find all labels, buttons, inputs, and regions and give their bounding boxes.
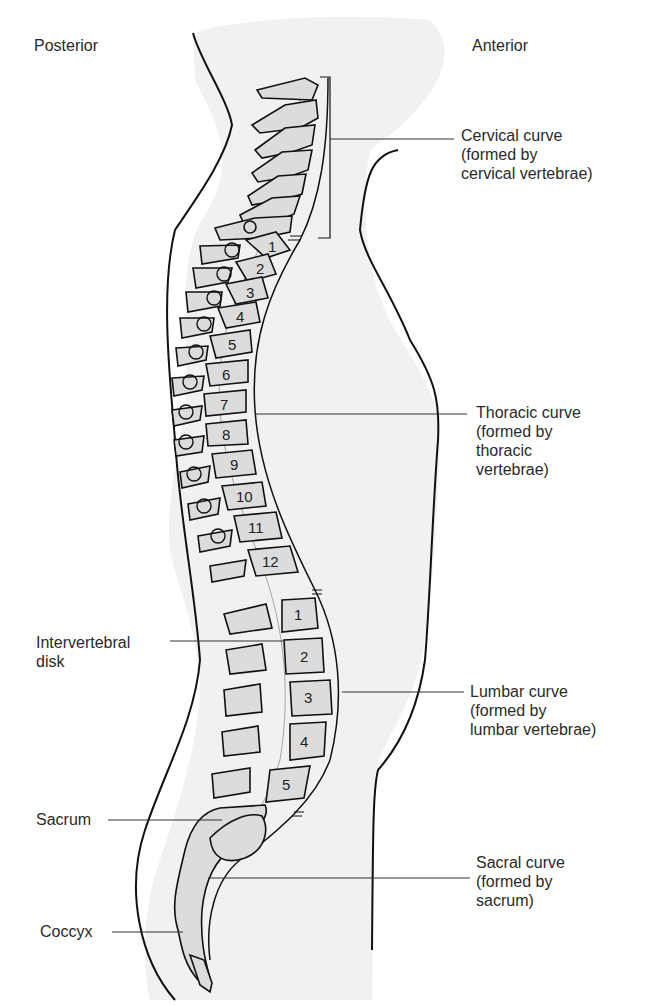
anterior-label: Anterior xyxy=(472,36,528,55)
vertebra-number-t9: 9 xyxy=(230,456,238,473)
vertebra-number-t4: 4 xyxy=(236,308,244,325)
vertebra-number-t7: 7 xyxy=(220,396,228,413)
thoracic-curve-line4: vertebrae) xyxy=(476,460,581,479)
vertebra-number-t2: 2 xyxy=(256,260,264,277)
vertebra-number-t5: 5 xyxy=(228,336,236,353)
vertebra-number-l1: 1 xyxy=(294,606,302,623)
vertebra-number-t10: 10 xyxy=(236,488,253,505)
intervertebral-disk-label: Intervertebral disk xyxy=(36,633,130,671)
coccyx-label-text: Coccyx xyxy=(40,922,92,941)
lumbar-curve-line2: (formed by xyxy=(470,701,596,720)
thoracic-curve-title: Thoracic curve xyxy=(476,403,581,422)
vertebra-number-l2: 2 xyxy=(300,648,308,665)
cervical-curve-title: Cervical curve xyxy=(461,126,593,145)
cervical-curve-label: Cervical curve (formed by cervical verte… xyxy=(461,126,593,183)
lumbar-curve-line3: lumbar vertebrae) xyxy=(470,720,596,739)
cervical-curve-line2: (formed by xyxy=(461,145,593,164)
vertebra-number-t1: 1 xyxy=(268,238,276,255)
sacrum-label-text: Sacrum xyxy=(36,810,91,829)
lumbar-curve-title: Lumbar curve xyxy=(470,682,596,701)
vertebra-number-t11: 11 xyxy=(248,519,264,536)
coccyx-label: Coccyx xyxy=(40,922,92,941)
thoracic-curve-line3: thoracic xyxy=(476,441,581,460)
thoracic-curve-label: Thoracic curve (formed by thoracic verte… xyxy=(476,403,581,479)
disk-label-line1: Intervertebral xyxy=(36,633,130,652)
vertebra-number-l3: 3 xyxy=(304,689,312,706)
sacral-curve-line3: sacrum) xyxy=(476,891,565,910)
vertebra-number-t12: 12 xyxy=(262,553,279,570)
lumbar-curve-label: Lumbar curve (formed by lumbar vertebrae… xyxy=(470,682,596,739)
sacrum-label: Sacrum xyxy=(36,810,91,829)
sacral-curve-label: Sacral curve (formed by sacrum) xyxy=(476,853,565,910)
thoracic-curve-line2: (formed by xyxy=(476,422,581,441)
vertebra-number-t6: 6 xyxy=(222,366,230,383)
cervical-curve-line3: cervical vertebrae) xyxy=(461,164,593,183)
sacral-curve-line2: (formed by xyxy=(476,872,565,891)
posterior-label: Posterior xyxy=(34,36,98,55)
vertebra-number-t3: 3 xyxy=(246,284,254,301)
vertebra-number-l4: 4 xyxy=(300,733,308,750)
vertebra-number-t8: 8 xyxy=(222,426,230,443)
disk-label-line2: disk xyxy=(36,652,130,671)
vertebra-number-l5: 5 xyxy=(282,776,290,793)
sacral-curve-title: Sacral curve xyxy=(476,853,565,872)
